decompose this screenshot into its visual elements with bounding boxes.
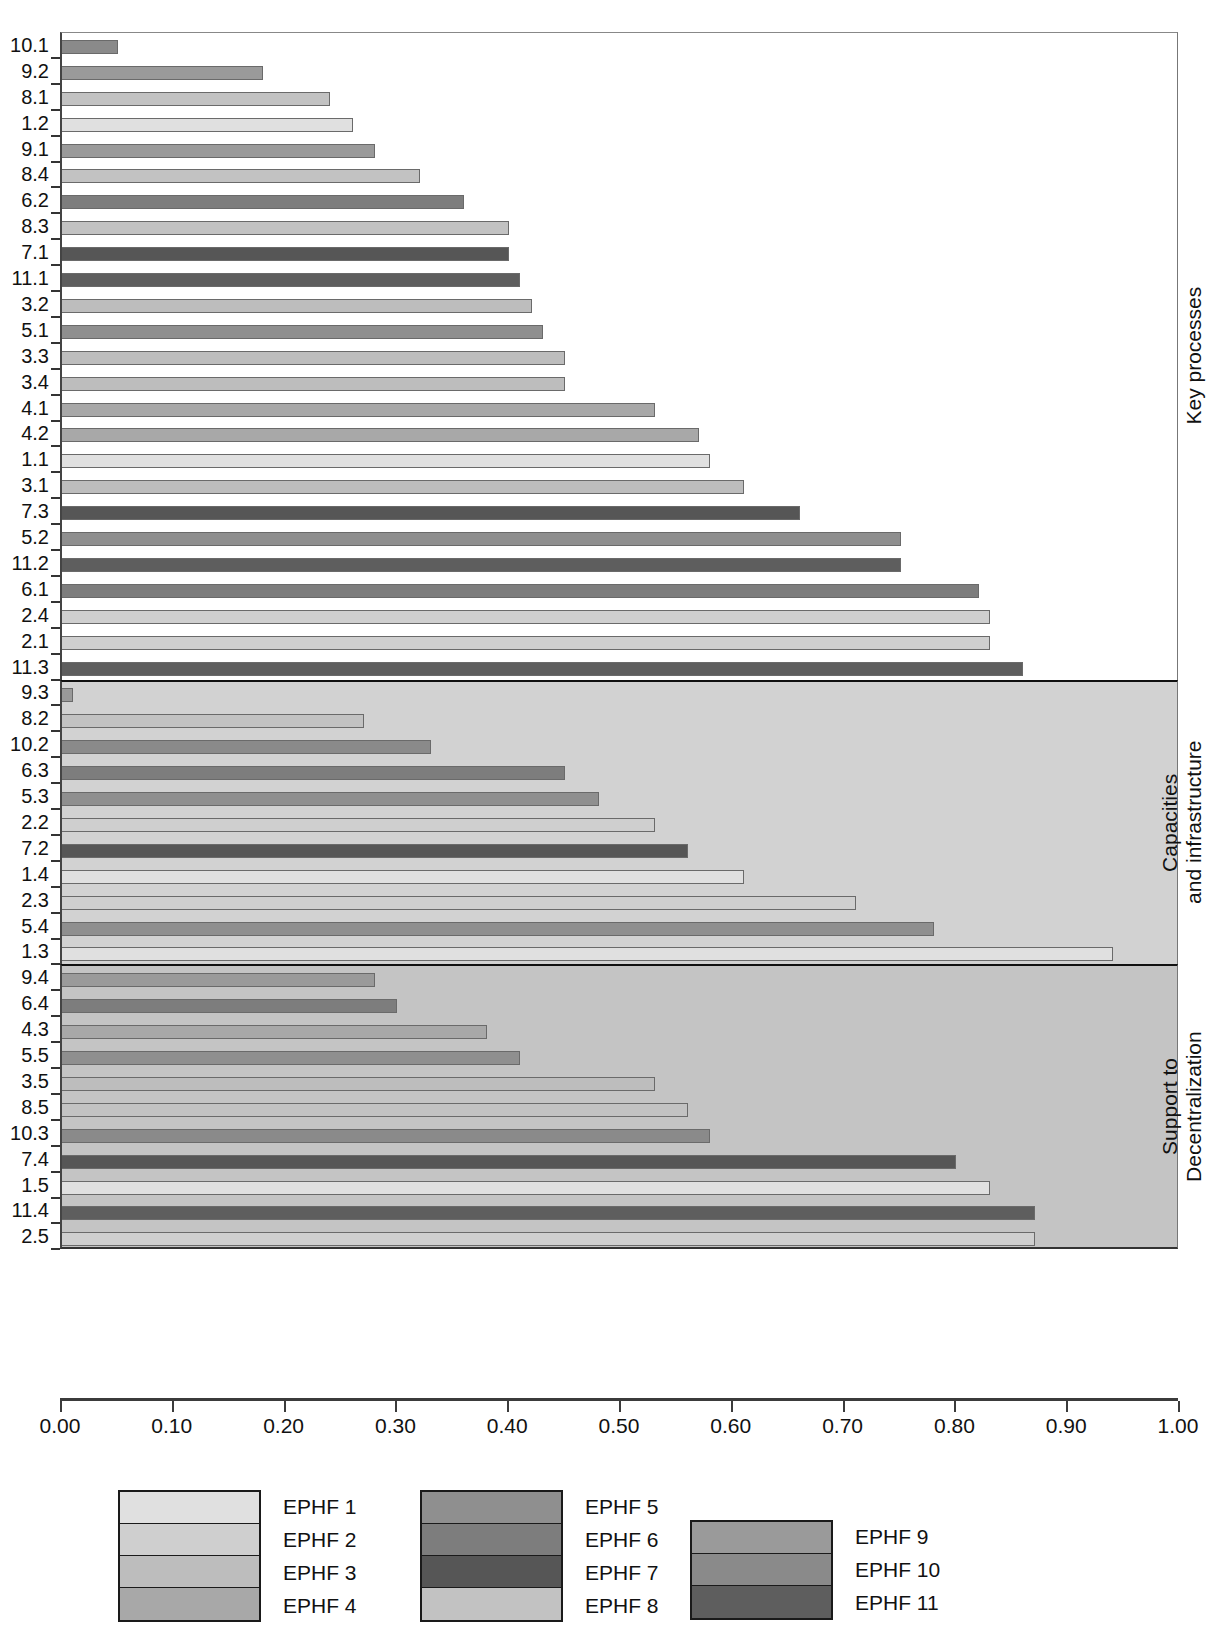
x-axis-tick-label: 0.30 (375, 1414, 416, 1438)
y-axis-tick (51, 83, 60, 85)
section-label-2: Capacities and infrastructure (1158, 680, 1206, 965)
legend-swatch (120, 1524, 259, 1556)
bar (62, 506, 800, 520)
bar (62, 792, 599, 806)
y-axis-tick (51, 264, 60, 266)
y-axis-tick (51, 1197, 60, 1199)
x-axis-tick (60, 1401, 62, 1412)
y-axis-label: 1.1 (21, 449, 58, 469)
legend-group-3: EPHF 9EPHF 10EPHF 11 (690, 1520, 940, 1620)
y-axis-tick (51, 316, 60, 318)
bar (62, 1232, 1035, 1246)
y-axis-label: 9.2 (21, 61, 58, 81)
x-axis-tick (843, 1401, 845, 1412)
legend-label: EPHF 11 (855, 1586, 940, 1619)
y-axis-tick (51, 860, 60, 862)
legend-swatch (120, 1492, 259, 1524)
legend-label: EPHF 6 (585, 1523, 659, 1556)
y-axis-label: 8.5 (21, 1097, 58, 1117)
y-axis-label: 4.3 (21, 1019, 58, 1039)
y-axis-label: 9.3 (21, 682, 58, 702)
plot-area: 10.19.28.11.29.18.46.28.37.111.13.25.13.… (0, 0, 1210, 1420)
bar (62, 428, 699, 442)
y-axis-label: 6.1 (21, 579, 58, 599)
x-axis-tick-label: 0.80 (934, 1414, 975, 1438)
y-axis-tick (51, 445, 60, 447)
bar (62, 636, 990, 650)
bar (62, 973, 375, 987)
bar (62, 610, 990, 624)
y-axis-tick (51, 394, 60, 396)
bar (62, 896, 856, 910)
legend-swatch-stack (118, 1490, 261, 1622)
legend-label: EPHF 3 (283, 1556, 357, 1589)
y-axis-label: 11.3 (12, 657, 58, 677)
legend-swatch-stack (420, 1490, 563, 1622)
y-axis-tick (51, 601, 60, 603)
bar (62, 662, 1023, 676)
y-axis-tick (51, 109, 60, 111)
legend-swatch (692, 1586, 831, 1618)
y-axis-tick (51, 1171, 60, 1173)
y-axis-label: 1.2 (21, 113, 58, 133)
y-axis-label: 5.1 (21, 320, 58, 340)
bar (62, 169, 420, 183)
x-axis-tick (284, 1401, 286, 1412)
legend-label: EPHF 10 (855, 1553, 940, 1586)
bar (62, 1103, 688, 1117)
y-axis-label: 8.4 (21, 164, 58, 184)
y-axis-tick (51, 212, 60, 214)
bar (62, 999, 397, 1013)
y-axis-label: 3.4 (21, 372, 58, 392)
x-axis-tick-label: 0.60 (710, 1414, 751, 1438)
legend-group-2: EPHF 5EPHF 6EPHF 7EPHF 8 (420, 1490, 659, 1622)
y-axis-tick (51, 420, 60, 422)
y-axis-label: 6.4 (21, 993, 58, 1013)
x-axis-tick (731, 1401, 733, 1412)
y-axis-tick (51, 186, 60, 188)
y-axis-label: 11.2 (12, 553, 58, 573)
y-axis-tick (51, 1248, 60, 1250)
bar (62, 558, 901, 572)
legend-swatch (120, 1556, 259, 1588)
y-axis-label: 2.2 (21, 812, 58, 832)
bar (62, 1025, 487, 1039)
y-axis-tick (51, 912, 60, 914)
bar (62, 922, 934, 936)
y-axis-label: 2.1 (21, 631, 58, 651)
y-axis-tick (51, 1067, 60, 1069)
y-axis-tick (51, 523, 60, 525)
y-axis-tick (51, 756, 60, 758)
legend-label: EPHF 4 (283, 1589, 357, 1622)
y-axis-label: 5.2 (21, 527, 58, 547)
bar (62, 740, 431, 754)
y-axis-tick (51, 1093, 60, 1095)
y-axis-tick (51, 368, 60, 370)
legend-label-stack: EPHF 5EPHF 6EPHF 7EPHF 8 (585, 1490, 659, 1622)
bar (62, 1051, 520, 1065)
section-label-3: Support to Decentralization (1158, 964, 1206, 1249)
y-axis-label: 7.1 (21, 242, 58, 262)
bar (62, 714, 364, 728)
bar (62, 92, 330, 106)
y-axis-label: 8.1 (21, 87, 58, 107)
bar (62, 66, 263, 80)
y-axis-label: 5.5 (21, 1045, 58, 1065)
y-axis-tick (51, 549, 60, 551)
y-axis-label: 6.2 (21, 190, 58, 210)
bar (62, 532, 901, 546)
bar (62, 351, 565, 365)
legend-group-1: EPHF 1EPHF 2EPHF 3EPHF 4 (118, 1490, 357, 1622)
bar (62, 480, 744, 494)
y-axis-tick (51, 1145, 60, 1147)
x-axis (60, 1398, 1178, 1401)
y-axis-tick (51, 342, 60, 344)
y-axis-label: 3.5 (21, 1071, 58, 1091)
y-axis-label: 2.5 (21, 1226, 58, 1246)
x-axis-tick-label: 0.90 (1046, 1414, 1087, 1438)
legend-swatch (692, 1522, 831, 1554)
bar (62, 247, 509, 261)
chart-section-2 (60, 680, 1178, 965)
y-axis-label: 9.1 (21, 139, 58, 159)
y-axis-label: 10.3 (10, 1123, 58, 1143)
